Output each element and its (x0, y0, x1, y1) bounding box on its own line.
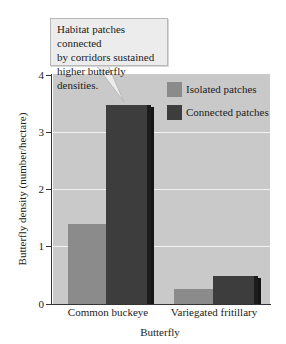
callout-line: by corridors sustained (57, 50, 167, 64)
annotation-callout: Habitat patches connected by corridors s… (50, 18, 168, 66)
callout-line: Habitat patches connected (57, 22, 167, 50)
callout-line: higher butterfly densities. (57, 64, 167, 92)
